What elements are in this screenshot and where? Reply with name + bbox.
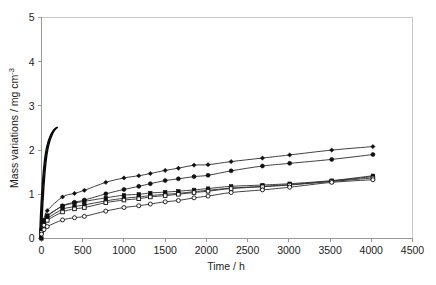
marker-filled-circle: [229, 169, 233, 173]
marker-filled-circle: [192, 175, 196, 179]
y-axis-title-superscript: -3: [7, 68, 16, 75]
x-tick-label: 4500: [401, 244, 425, 256]
marker-open-circle: [104, 209, 108, 213]
marker-open-square: [45, 219, 49, 223]
marker-filled-circle: [163, 179, 167, 183]
marker-open-square: [61, 210, 65, 214]
y-tick-label: 4: [29, 56, 35, 68]
marker-open-circle: [122, 206, 126, 210]
marker-open-circle: [330, 180, 334, 184]
chart-svg: 050010001500200025003000350040004500 012…: [0, 0, 436, 285]
marker-open-circle: [72, 216, 76, 220]
chart-background: [0, 0, 436, 285]
marker-open-square: [73, 207, 77, 211]
marker-open-circle: [206, 194, 210, 198]
marker-open-circle: [192, 196, 196, 200]
marker-filled-circle: [288, 161, 292, 165]
marker-open-circle: [260, 188, 264, 192]
marker-open-square: [122, 198, 126, 202]
marker-open-square: [229, 187, 233, 191]
marker-filled-circle: [176, 177, 180, 181]
marker-open-circle: [371, 178, 375, 182]
marker-open-circle: [148, 202, 152, 206]
x-tick-label: 3500: [318, 244, 342, 256]
marker-filled-circle: [206, 173, 210, 177]
marker-filled-circle: [371, 153, 375, 157]
x-tick-label: 500: [74, 244, 92, 256]
y-tick-label: 2: [29, 144, 35, 156]
chart-figure: 050010001500200025003000350040004500 012…: [0, 0, 436, 285]
marker-filled-circle: [330, 157, 334, 161]
marker-open-circle: [163, 200, 167, 204]
marker-filled-circle: [148, 182, 152, 186]
marker-filled-circle: [104, 192, 108, 196]
marker-open-circle: [42, 228, 46, 232]
y-axis-title-main: Mass variations / mg cm: [8, 74, 20, 187]
marker-open-circle: [40, 232, 44, 236]
marker-filled-circle: [260, 164, 264, 168]
marker-open-circle: [45, 225, 49, 229]
y-tick-label: 3: [29, 100, 35, 112]
y-tick-label: 5: [29, 11, 35, 23]
marker-open-square: [149, 195, 153, 199]
y-axis-title: Mass variations / mg cm-3: [7, 68, 21, 188]
marker-open-square: [163, 194, 167, 198]
marker-open-square: [192, 191, 196, 195]
marker-open-circle: [61, 218, 65, 222]
x-tick-label: 2500: [236, 244, 260, 256]
x-tick-label: 2000: [195, 244, 219, 256]
marker-open-square: [177, 193, 181, 197]
x-tick-label: 1500: [153, 244, 177, 256]
marker-open-circle: [288, 185, 292, 189]
marker-open-circle: [137, 204, 141, 208]
x-tick-label: 4000: [360, 244, 384, 256]
y-axis-title-text: Mass variations / mg cm-3: [7, 68, 21, 188]
marker-open-square: [137, 197, 141, 201]
marker-filled-circle: [137, 184, 141, 188]
marker-open-circle: [176, 198, 180, 202]
x-tick-label: 3000: [277, 244, 301, 256]
marker-filled-square: [83, 200, 86, 203]
marker-open-square: [83, 206, 87, 210]
marker-open-circle: [229, 191, 233, 195]
marker-open-square: [206, 189, 210, 193]
marker-filled-square: [40, 237, 43, 240]
marker-filled-square: [73, 201, 76, 204]
marker-open-square: [104, 201, 108, 205]
x-axis-title: Time / h: [207, 260, 245, 272]
marker-open-circle: [82, 214, 86, 218]
marker-filled-circle: [122, 187, 126, 191]
x-tick-label: 1000: [112, 244, 136, 256]
y-tick-label: 0: [29, 232, 35, 244]
y-tick-label: 1: [29, 188, 35, 200]
x-tick-label: 0: [39, 244, 45, 256]
